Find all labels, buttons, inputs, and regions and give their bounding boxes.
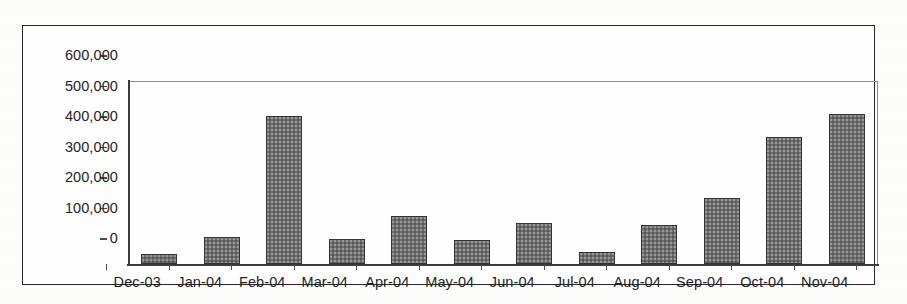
y-axis-tick-label: 200,000 [32,169,118,185]
y-axis-tick-label: 400,000 [32,108,118,124]
y-axis-tick-label: 0 [32,230,118,246]
bar [516,223,552,264]
y-axis-tick-label: 600,000 [32,47,118,63]
x-axis-category-label: Nov-04 [801,274,848,290]
chart-outer-frame: 0100,000200,000300,000400,000500,000600,… [22,25,875,285]
x-axis-category-label: Aug-04 [614,274,661,290]
y-axis-tick-label: 300,000 [32,139,118,155]
bar [766,137,802,264]
bar [454,240,490,264]
x-axis-tick [481,264,482,270]
x-axis-tick [294,264,295,270]
scanned-page-background: 0100,000200,000300,000400,000500,000600,… [0,0,907,304]
x-axis-tick [419,264,420,270]
x-axis-category-label: Sep-04 [676,274,723,290]
x-axis-tick [106,264,107,270]
bar-series [128,81,878,264]
bar [141,254,177,264]
x-axis-category-label: Jun-04 [490,274,535,290]
x-axis-tick [544,264,545,270]
bar [329,239,365,264]
x-axis-tick [169,264,170,270]
x-axis-category-label: Mar-04 [301,274,348,290]
x-axis-tick [731,264,732,270]
x-axis-tick [356,264,357,270]
x-axis-category-label: May-04 [425,274,474,290]
bar [829,114,865,264]
bar [641,225,677,264]
x-axis-category-label: Oct-04 [740,274,784,290]
x-axis-category-label: Jul-04 [555,274,595,290]
x-axis-tick [856,264,857,270]
x-axis-category-label: Dec-03 [114,274,161,290]
x-axis-category-label: Feb-04 [239,274,286,290]
x-axis-tick [606,264,607,270]
x-axis-tick [231,264,232,270]
bar [266,116,302,264]
x-axis-tick [794,264,795,270]
bar [204,237,240,264]
y-axis-labels: 0100,000200,000300,000400,000500,000600,… [23,26,118,286]
y-axis-tick-label: 500,000 [32,78,118,94]
x-axis-line [127,264,879,266]
x-axis-category-label: Jan-04 [177,274,222,290]
bar [391,216,427,264]
bar [579,252,615,264]
x-axis-category-label: Apr-04 [365,274,409,290]
y-axis-tick-label: 100,000 [32,200,118,216]
x-axis-tick [669,264,670,270]
bar [704,198,740,264]
